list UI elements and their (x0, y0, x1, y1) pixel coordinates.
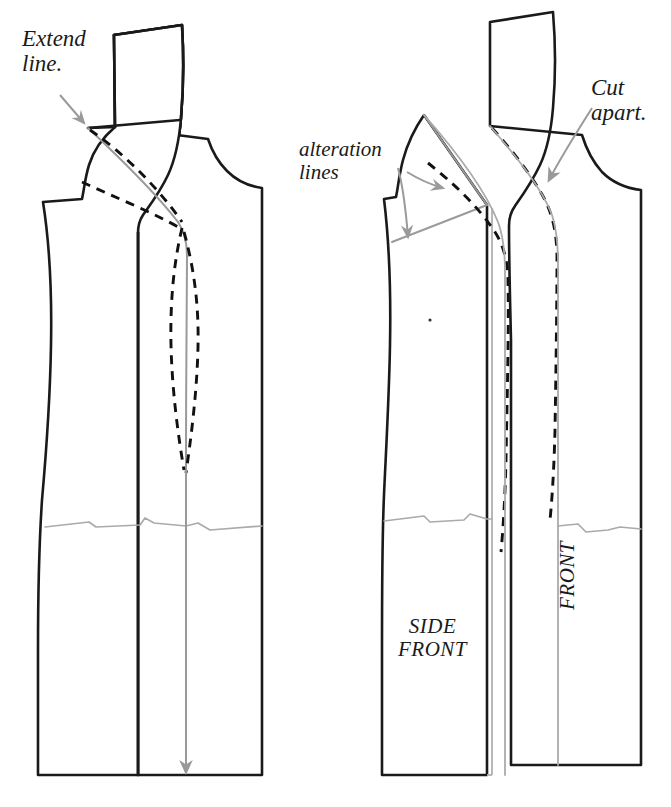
pattern-diagram (0, 0, 671, 807)
annotation-extend-line: Extend line. (22, 27, 86, 77)
extend-line-arrow (60, 95, 84, 123)
left-shoulder-seam (88, 35, 115, 128)
left-panel (38, 25, 262, 775)
annotation-alteration-lines: alteration lines (299, 138, 382, 183)
side-front-outline (382, 115, 487, 775)
right-panel-side-front (382, 115, 508, 775)
piece-label-front: FRONT (556, 541, 579, 610)
piece-label-side-front: SIDE FRONT (398, 615, 467, 660)
illustration-canvas: Extend line. alteration lines Cut apart.… (0, 0, 671, 807)
side-front-center-dot (428, 318, 431, 321)
annotation-cut-apart: Cut apart. (591, 76, 647, 126)
